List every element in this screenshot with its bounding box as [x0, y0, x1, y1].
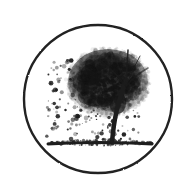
emblem-illustration: Tree in circular medallion	[0, 0, 194, 195]
tree-emblem-canvas	[0, 0, 194, 195]
